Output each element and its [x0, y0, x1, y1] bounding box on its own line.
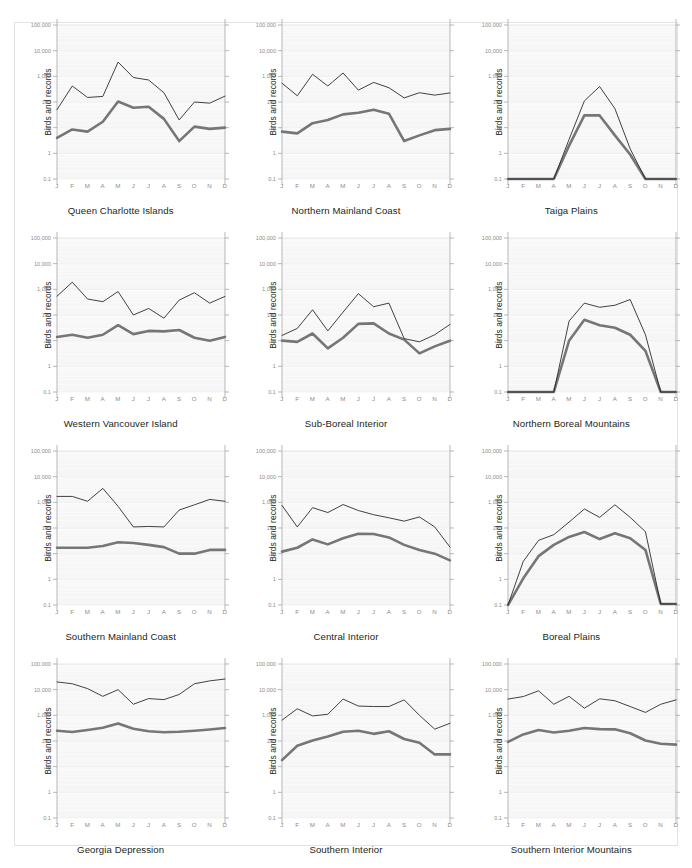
y-axis-label: Birds and records	[493, 494, 503, 561]
svg-text:1: 1	[499, 789, 502, 795]
svg-text:0.1: 0.1	[269, 176, 277, 182]
svg-text:A: A	[612, 395, 617, 402]
svg-text:J: J	[132, 608, 135, 615]
svg-text:1: 1	[499, 576, 502, 582]
chart-caption: Taiga Plains	[459, 205, 684, 216]
svg-text:0.1: 0.1	[43, 389, 51, 395]
y-axis-label: Birds and records	[43, 68, 53, 135]
svg-text:100,000: 100,000	[256, 448, 276, 454]
y-axis-label: Birds and records	[268, 707, 278, 774]
svg-text:D: D	[673, 395, 678, 402]
svg-text:10,000: 10,000	[259, 48, 276, 54]
svg-text:J: J	[281, 608, 284, 615]
svg-text:0.1: 0.1	[43, 176, 51, 182]
svg-text:1: 1	[273, 789, 276, 795]
chart-panel: 100,00010,0001,0001001010.1JFMAMJJASONDB…	[459, 9, 684, 222]
svg-text:M: M	[85, 395, 90, 402]
svg-text:J: J	[132, 821, 135, 828]
svg-text:J: J	[357, 395, 360, 402]
svg-text:J: J	[598, 182, 601, 189]
svg-text:10,000: 10,000	[34, 474, 51, 480]
y-axis-label: Birds and records	[268, 281, 278, 348]
svg-text:M: M	[310, 608, 315, 615]
svg-text:D: D	[223, 182, 228, 189]
svg-text:A: A	[101, 821, 106, 828]
svg-text:M: M	[566, 608, 571, 615]
svg-text:F: F	[70, 182, 74, 189]
svg-text:0.1: 0.1	[43, 815, 51, 821]
svg-text:O: O	[192, 182, 197, 189]
svg-text:J: J	[598, 395, 601, 402]
svg-text:J: J	[372, 608, 375, 615]
svg-text:J: J	[598, 821, 601, 828]
svg-text:M: M	[535, 395, 540, 402]
svg-text:J: J	[55, 395, 58, 402]
svg-text:1: 1	[499, 363, 502, 369]
svg-text:10,000: 10,000	[485, 687, 502, 693]
chart-caption: Northern Boreal Mountains	[459, 418, 684, 429]
svg-text:A: A	[551, 608, 556, 615]
y-axis-label: Birds and records	[493, 68, 503, 135]
svg-text:D: D	[223, 608, 228, 615]
svg-text:J: J	[582, 182, 585, 189]
svg-text:D: D	[673, 608, 678, 615]
svg-text:100,000: 100,000	[481, 661, 501, 667]
svg-text:M: M	[341, 395, 346, 402]
svg-text:100,000: 100,000	[481, 448, 501, 454]
svg-text:D: D	[223, 395, 228, 402]
svg-text:J: J	[372, 395, 375, 402]
svg-text:J: J	[506, 821, 509, 828]
svg-text:S: S	[177, 182, 181, 189]
svg-text:M: M	[85, 821, 90, 828]
svg-text:F: F	[70, 821, 74, 828]
chart-plot-area: 100,00010,0001,0001001010.1JFMAMJJASOND	[459, 222, 684, 435]
chart-caption: Southern Interior	[233, 844, 458, 855]
svg-text:A: A	[326, 395, 331, 402]
svg-text:F: F	[521, 395, 525, 402]
chart-caption: Queen Charlotte Islands	[8, 205, 233, 216]
svg-text:0.1: 0.1	[494, 815, 502, 821]
svg-text:A: A	[326, 608, 331, 615]
svg-text:J: J	[357, 821, 360, 828]
svg-text:A: A	[551, 821, 556, 828]
svg-text:10,000: 10,000	[34, 261, 51, 267]
svg-text:A: A	[101, 395, 106, 402]
svg-text:D: D	[673, 182, 678, 189]
svg-text:D: D	[448, 182, 453, 189]
svg-text:J: J	[506, 608, 509, 615]
svg-text:M: M	[310, 821, 315, 828]
svg-text:N: N	[433, 182, 438, 189]
svg-text:N: N	[433, 821, 438, 828]
svg-text:S: S	[628, 395, 632, 402]
svg-text:J: J	[147, 608, 150, 615]
svg-text:F: F	[70, 608, 74, 615]
svg-text:100,000: 100,000	[256, 235, 276, 241]
chart-panel: 100,00010,0001,0001001010.1JFMAMJJASONDB…	[233, 648, 458, 861]
svg-text:S: S	[177, 821, 181, 828]
svg-text:J: J	[147, 395, 150, 402]
svg-text:N: N	[658, 182, 663, 189]
svg-text:J: J	[55, 821, 58, 828]
chart-panel: 100,00010,0001,0001001010.1JFMAMJJASONDB…	[8, 435, 233, 648]
svg-text:A: A	[326, 182, 331, 189]
figure-panel-grid: 100,00010,0001,0001001010.1JFMAMJJASONDB…	[0, 0, 692, 868]
y-axis-label: Birds and records	[268, 68, 278, 135]
svg-text:D: D	[448, 821, 453, 828]
chart-caption: Central Interior	[233, 631, 458, 642]
svg-text:100,000: 100,000	[31, 661, 51, 667]
svg-text:J: J	[55, 608, 58, 615]
svg-text:D: D	[673, 821, 678, 828]
chart-caption: Georgia Depression	[8, 844, 233, 855]
svg-text:N: N	[658, 821, 663, 828]
svg-text:A: A	[612, 821, 617, 828]
chart-plot-area: 100,00010,0001,0001001010.1JFMAMJJASOND	[459, 648, 684, 861]
svg-text:F: F	[296, 182, 300, 189]
svg-text:A: A	[326, 821, 331, 828]
chart-grid: 100,00010,0001,0001001010.1JFMAMJJASONDB…	[8, 9, 684, 861]
svg-text:M: M	[310, 182, 315, 189]
svg-text:S: S	[177, 608, 181, 615]
svg-text:S: S	[402, 395, 406, 402]
svg-text:N: N	[658, 608, 663, 615]
chart-caption: Northern Mainland Coast	[233, 205, 458, 216]
svg-text:J: J	[372, 821, 375, 828]
